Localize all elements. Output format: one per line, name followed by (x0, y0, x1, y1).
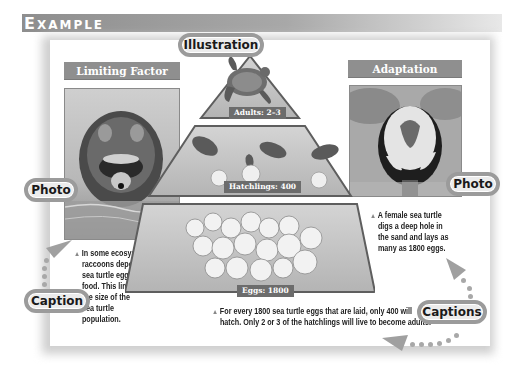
caption-triangle-icon: ▲ (74, 250, 80, 257)
header-title-initial: E (24, 14, 37, 33)
photo-callout-left: Photo (24, 178, 78, 202)
arrow-dot (419, 342, 424, 347)
arrow-dot (446, 338, 451, 343)
arrow-dot (468, 294, 473, 299)
arrow-dot (437, 341, 442, 346)
arrow-dot (42, 274, 47, 279)
caption-line: population. (74, 314, 171, 325)
captions-callout: Captions (417, 300, 487, 324)
arrow-dot (454, 333, 459, 338)
illustration-callout: Illustration (178, 33, 264, 57)
tier-label-adults: Adults: 2–3 (229, 107, 286, 119)
arrow-dot (410, 342, 415, 347)
arrow-dot (44, 258, 49, 263)
caption-triangle-icon: ▲ (212, 308, 218, 315)
arrow-dot (42, 282, 47, 287)
caption-line: many as 1800 eggs. (370, 243, 467, 254)
caption-line: A female sea turtle (378, 211, 442, 220)
tier-label-eggs: Eggs: 1800 (237, 285, 294, 297)
photo-callout-right: Photo (446, 172, 500, 196)
arrowhead-icon (46, 240, 72, 258)
right-caption: ▲A female sea turtle digs a deep hole in… (370, 210, 467, 254)
header-title-rest: XAMPLE (37, 18, 104, 32)
arrow-dot (467, 286, 472, 291)
arrowhead-icon (446, 258, 466, 280)
tier-label-hatchlings: Hatchlings: 400 (224, 181, 301, 193)
arrow-dot (428, 342, 433, 347)
arrowhead-icon (382, 335, 408, 351)
caption-line: For every 1800 sea turtle eggs that are … (220, 307, 412, 316)
caption-callout: Caption (24, 289, 90, 313)
sea-turtle-pyramid (125, 56, 375, 300)
caption-line: digs a deep hole in (370, 221, 467, 232)
arrow-dot (42, 266, 47, 271)
example-header-title: EXAMPLE (24, 14, 104, 32)
caption-line: the sand and lays as (370, 232, 467, 243)
